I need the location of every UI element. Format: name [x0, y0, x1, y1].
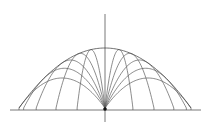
trajectory-curve	[105, 60, 174, 110]
trajectory-diagram	[0, 0, 212, 131]
launch-origin-marker	[103, 107, 107, 111]
trajectory-curve	[36, 60, 105, 110]
